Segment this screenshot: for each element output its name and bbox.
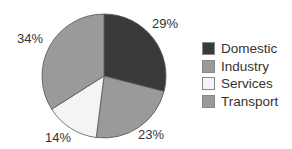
label-industry: 23% xyxy=(138,127,164,142)
label-services: 14% xyxy=(45,130,71,145)
legend-item-transport: Transport xyxy=(202,93,278,111)
legend-item-industry: Industry xyxy=(202,58,278,76)
swatch-industry xyxy=(202,60,215,73)
label-domestic: 29% xyxy=(152,16,178,31)
swatch-domestic xyxy=(202,42,215,55)
legend-item-domestic: Domestic xyxy=(202,40,278,58)
swatch-services xyxy=(202,77,215,90)
swatch-transport xyxy=(202,95,215,108)
label-transport: 34% xyxy=(17,31,43,46)
legend: Domestic Industry Services Transport xyxy=(202,40,278,110)
legend-item-services: Services xyxy=(202,75,278,93)
